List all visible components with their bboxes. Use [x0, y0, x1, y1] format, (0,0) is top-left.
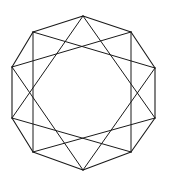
decagon-star-figure: [0, 0, 169, 183]
figure-background: [0, 0, 169, 183]
